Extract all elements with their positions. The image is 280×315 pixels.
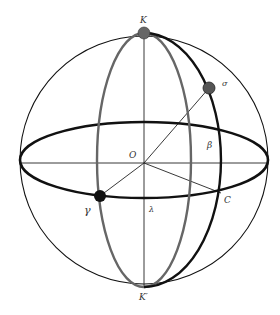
line-o-gamma [100,163,144,196]
label-gamma: γ [84,205,91,216]
label-sigma: σ [222,80,227,88]
line-o-c [144,163,221,193]
label-k: K [140,16,147,25]
label-o: O [129,151,136,160]
vernal-gamma-point [94,190,106,202]
label-c: C [224,196,231,205]
label-k-prime: K′ [139,293,148,302]
label-lambda: λ [149,206,154,214]
pole-k-point [138,27,150,39]
star-sigma-point [203,82,215,94]
black-meridian [144,33,221,287]
label-beta: β [207,141,212,150]
celestial-sphere-diagram [0,0,280,315]
